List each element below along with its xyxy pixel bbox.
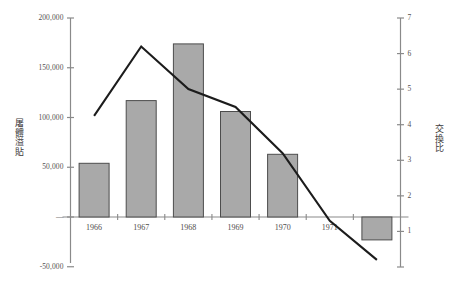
bar-1969 — [221, 112, 251, 218]
bar-1966 — [79, 163, 109, 217]
chart-container: 屠體溢貼 交換比 200,000150,000100,00050,000—-50… — [0, 0, 457, 284]
bar-1970 — [268, 154, 298, 217]
bar-1968 — [173, 44, 203, 217]
bar-1972 — [362, 217, 392, 240]
plot-area — [0, 0, 457, 284]
bar-1967 — [126, 101, 156, 217]
bar-series — [79, 44, 392, 240]
